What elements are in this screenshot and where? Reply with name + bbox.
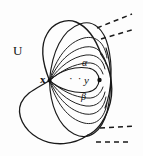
label-set-u: U <box>13 44 22 57</box>
point-x-dot <box>48 79 52 83</box>
dashed-continuation-bottom-inner <box>100 126 135 128</box>
topology-figure: U x · · y α β <box>0 0 143 156</box>
label-curve-beta: β <box>81 92 86 102</box>
label-point-x: x <box>40 74 46 85</box>
set-u-right-arc <box>88 54 112 135</box>
label-ellipsis: · · <box>69 73 83 84</box>
label-curve-alpha: α <box>82 58 87 68</box>
dashed-continuation-top-inner <box>101 29 135 39</box>
label-point-y: y <box>84 75 89 86</box>
dashed-continuation-top-outer <box>97 14 132 28</box>
point-y-dot <box>97 78 101 82</box>
fan-arc-lower-2 <box>50 81 106 107</box>
